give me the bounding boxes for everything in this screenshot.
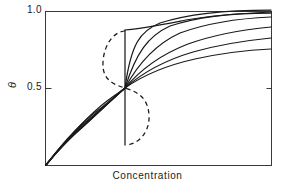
isotherm-plot: [0, 0, 295, 189]
x-axis-label: Concentration: [0, 170, 295, 181]
isotherm-curve-4: [46, 17, 271, 165]
y-axis-label: θ: [6, 82, 18, 88]
ytick-label-top: 1.0: [27, 4, 42, 15]
plot-frame: [46, 12, 272, 166]
figure-container: 1.0 0.5 θ Concentration: [0, 0, 295, 189]
isotherm-curve-3: [46, 27, 271, 165]
isotherm-curve-1: [46, 49, 271, 165]
isotherm-curve-2: [46, 38, 271, 165]
ytick-label-mid: 0.5: [27, 81, 42, 92]
isotherm-curve-5: [46, 13, 271, 165]
